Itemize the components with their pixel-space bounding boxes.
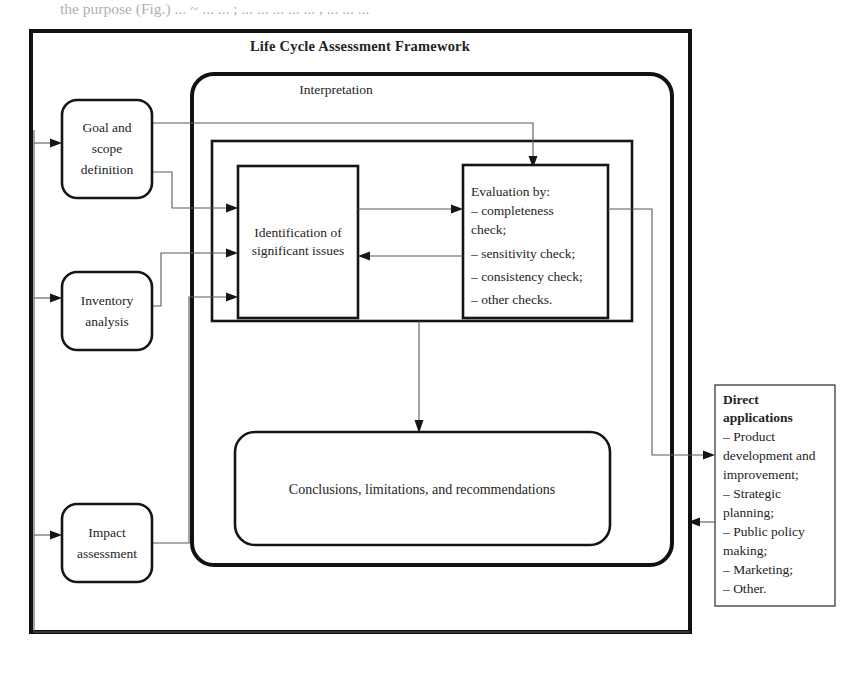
arrowhead-inventory-to-identification: [226, 249, 238, 258]
conclusions-text: Conclusions, limitations, and recommenda…: [289, 482, 555, 497]
goal-line-2: scope: [92, 141, 123, 156]
evaluation-item-4: – other checks.: [470, 292, 552, 307]
direct-applications-item-1: development and: [723, 448, 816, 463]
identification-box-fill: [238, 166, 358, 318]
diagram-canvas: the purpose (Fig.) ... ~ ... ... ; ... .…: [0, 0, 868, 677]
direct-applications-item-5: – Public policy: [722, 524, 805, 539]
evaluation-item-3: – consistency check;: [470, 269, 583, 284]
direct-applications-item-7: – Marketing;: [722, 562, 793, 577]
identification-line-1: Identification of: [254, 225, 342, 240]
impact-line-2: assessment: [77, 546, 137, 561]
impact-assessment-fill: [62, 504, 152, 582]
direct-applications-item-6: making;: [723, 543, 767, 558]
interpretation-title: Interpretation: [299, 82, 373, 97]
arrowhead-to-direct-applications: [703, 451, 715, 460]
scanned-page-top-text-fragment: the purpose (Fig.) ... ~ ... ... ; ... .…: [60, 0, 369, 18]
lca-framework-diagram: the purpose (Fig.) ... ~ ... ... ; ... .…: [0, 0, 868, 677]
evaluation-item-1: check;: [471, 222, 506, 237]
evaluation-item-0: – completeness: [470, 203, 554, 218]
arrowhead-goal-to-identification: [226, 204, 238, 213]
inventory-line-1: Inventory: [81, 293, 134, 308]
inventory-line-2: analysis: [85, 314, 129, 329]
arrowhead-identification-to-evaluation: [451, 205, 463, 214]
direct-applications-item-2: improvement;: [723, 467, 799, 482]
impact-line-1: Impact: [88, 525, 126, 540]
direct-applications-heading-1: Direct: [723, 392, 759, 407]
arrowhead-bus-to-goal: [50, 139, 62, 148]
evaluation-heading: Evaluation by:: [471, 184, 550, 199]
arrowhead-bus-to-inventory: [50, 294, 62, 303]
goal-line-3: definition: [81, 162, 134, 177]
goal-line-1: Goal and: [82, 120, 131, 135]
identification-line-2: significant issues: [252, 243, 345, 258]
evaluation-item-2: – sensitivity check;: [470, 246, 575, 261]
direct-applications-item-8: – Other.: [722, 581, 767, 596]
direct-applications-item-4: planning;: [723, 505, 774, 520]
inventory-analysis-fill: [62, 272, 152, 350]
arrowhead-impact-to-identification: [226, 293, 238, 302]
direct-applications-item-0: – Product: [722, 429, 775, 444]
arrowhead-bus-to-impact: [50, 531, 62, 540]
direct-applications-item-3: – Strategic: [722, 486, 781, 501]
arrowhead-evaluation-to-identification: [358, 252, 370, 261]
direct-applications-heading-2: applications: [723, 410, 793, 425]
framework-title: Life Cycle Assessment Framework: [250, 38, 471, 54]
